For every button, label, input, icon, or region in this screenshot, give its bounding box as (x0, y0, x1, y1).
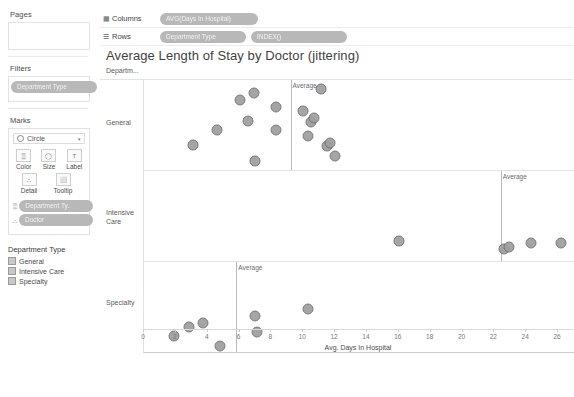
filters-dropzone[interactable]: Department Type (8, 76, 90, 102)
data-point[interactable] (183, 321, 194, 332)
color-legend: Department Type General Intensive Care S… (8, 245, 90, 285)
legend-item-intensive-care[interactable]: Intensive Care (8, 267, 90, 275)
marks-pill-row[interactable]: ▒ Department Ty.. (13, 200, 85, 212)
row-label-specialty[interactable]: Specialty (106, 299, 147, 308)
filter-pill-department-type[interactable]: Department Type (11, 81, 97, 93)
color-icon: ▒ (16, 149, 31, 162)
data-point[interactable] (503, 241, 514, 252)
x-axis-tick (270, 329, 271, 332)
color-button[interactable]: ▒ Color (11, 149, 36, 170)
data-point[interactable] (197, 318, 208, 329)
panel-intensive-care: Average (143, 171, 574, 262)
mark-type-value: Circle (27, 135, 45, 142)
marks-pill-row[interactable]: ∴ Doctor (13, 214, 85, 226)
x-axis: 02468101214161820222426 Avg. Days In Hos… (143, 329, 573, 330)
x-axis-tick (493, 329, 494, 332)
x-axis-tick (557, 329, 558, 332)
x-axis-line: 02468101214161820222426 (143, 329, 573, 330)
legend-item-specialty[interactable]: Specialty (8, 277, 90, 285)
data-point[interactable] (242, 115, 253, 126)
x-axis-tick (302, 329, 303, 332)
rows-pill-department-type[interactable]: Department Type (160, 31, 246, 43)
x-axis-tick-label: 18 (426, 333, 433, 340)
detail-button[interactable]: ∴ Detail (16, 173, 42, 194)
rows-shelf[interactable]: ☰ Rows Department Type INDEX() (100, 28, 573, 46)
x-axis-tick (525, 329, 526, 332)
x-axis-tick (398, 329, 399, 332)
data-point[interactable] (393, 236, 404, 247)
chevron-down-icon[interactable]: ▾ (78, 136, 81, 142)
data-point[interactable] (556, 238, 567, 249)
label-button[interactable]: T Label (62, 149, 87, 170)
data-point[interactable] (271, 124, 282, 135)
shelf-bar: ▦ Columns AVG(Days In Hospital) ☰ Rows D… (100, 10, 573, 46)
row-label-general[interactable]: General (106, 119, 147, 128)
x-axis-tick (366, 329, 367, 332)
data-point[interactable] (250, 156, 261, 167)
data-point[interactable] (526, 238, 537, 249)
legend-title: Department Type (8, 245, 90, 254)
data-point[interactable] (303, 303, 314, 314)
x-axis-tick-label: 8 (269, 333, 273, 340)
x-axis-tick-label: 6 (237, 333, 241, 340)
panel-divider-2 (8, 108, 88, 109)
average-reference-line[interactable] (291, 80, 292, 170)
data-point[interactable] (271, 102, 282, 113)
marks-pill-doctor[interactable]: Doctor (19, 214, 93, 226)
size-button[interactable]: ◯ Size (36, 149, 61, 170)
marks-body: Circle ▾ ▒ Color ◯ Size T Label (8, 128, 90, 235)
detail-button-label: Detail (21, 187, 38, 194)
pages-dropzone[interactable] (8, 22, 90, 50)
data-point[interactable] (315, 84, 326, 95)
legend-swatch-icon (8, 257, 16, 265)
data-point[interactable] (248, 87, 259, 98)
columns-shelf[interactable]: ▦ Columns AVG(Days In Hospital) (100, 10, 573, 28)
data-point[interactable] (309, 112, 320, 123)
label-button-label: Label (66, 163, 82, 170)
data-point[interactable] (212, 125, 223, 136)
marks-buttons-row-2: ∴ Detail ⬜ Tooltip (11, 173, 87, 194)
x-axis-tick-label: 26 (553, 333, 560, 340)
detail-icon: ∴ (22, 173, 37, 186)
visualization-area: Average Length of Stay by Doctor (jitter… (100, 46, 573, 397)
tooltip-button[interactable]: ⬜ Tooltip (50, 173, 76, 194)
legend-label: Intensive Care (19, 268, 64, 275)
average-reference-label: Average (503, 173, 527, 180)
x-axis-tick-label: 14 (362, 333, 369, 340)
x-axis-tick-label: 24 (522, 333, 529, 340)
rows-pill-index[interactable]: INDEX() (251, 31, 347, 43)
x-axis-tick-label: 2 (173, 333, 177, 340)
x-axis-tick (430, 329, 431, 332)
marks-pill-department-type[interactable]: Department Ty.. (19, 200, 93, 212)
mark-type-dropdown[interactable]: Circle ▾ (13, 133, 85, 144)
data-point[interactable] (188, 139, 199, 150)
rows-label: Rows (112, 32, 160, 41)
average-reference-label: Average (293, 82, 317, 89)
data-point[interactable] (298, 105, 309, 116)
marks-pill-list: ▒ Department Ty.. ∴ Doctor (11, 197, 87, 230)
data-point[interactable] (250, 311, 261, 322)
data-point[interactable] (330, 150, 341, 161)
page-title: Average Length of Stay by Doctor (jitter… (100, 46, 573, 67)
pages-shelf[interactable]: Pages (8, 8, 90, 50)
legend-item-general[interactable]: General (8, 257, 90, 265)
data-point[interactable] (303, 130, 314, 141)
row-label-intensive-care[interactable]: Intensive Care (106, 209, 147, 226)
panel-column: AverageAverageAverage (143, 80, 573, 353)
data-point[interactable] (325, 138, 336, 149)
data-point[interactable] (234, 94, 245, 105)
marks-card: Marks Circle ▾ ▒ Color ◯ S (8, 116, 90, 235)
marks-buttons-row-1: ▒ Color ◯ Size T Label (11, 149, 87, 170)
x-axis-tick-label: 20 (458, 333, 465, 340)
x-axis-tick (462, 329, 463, 332)
columns-label: Columns (112, 14, 160, 23)
x-axis-tick-label: 16 (394, 333, 401, 340)
legend-label: General (19, 258, 44, 265)
x-axis-tick (143, 329, 144, 332)
legend-swatch-icon (8, 267, 16, 275)
rows-icon: ☰ (100, 33, 112, 41)
average-reference-label: Average (238, 264, 262, 271)
columns-pill-avg-days[interactable]: AVG(Days In Hospital) (160, 13, 258, 25)
filters-shelf[interactable]: Filters Department Type (8, 62, 90, 102)
